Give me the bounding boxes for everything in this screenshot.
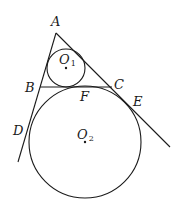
- label-c: C: [114, 77, 124, 92]
- label-f: F: [79, 89, 90, 104]
- center-o1: [65, 67, 67, 69]
- label-b: B: [24, 80, 35, 95]
- geometry-diagram: A B C F E D O1 O2: [0, 0, 179, 212]
- label-a: A: [50, 14, 60, 29]
- label-o2-main: O: [77, 127, 88, 142]
- label-o2: O2: [77, 127, 94, 143]
- label-o1: O1: [59, 52, 76, 68]
- label-o1-main: O: [59, 52, 70, 67]
- label-o2-sub: 2: [89, 134, 94, 143]
- label-e: E: [132, 94, 143, 109]
- label-o1-sub: 1: [71, 59, 76, 68]
- label-d: D: [12, 123, 24, 138]
